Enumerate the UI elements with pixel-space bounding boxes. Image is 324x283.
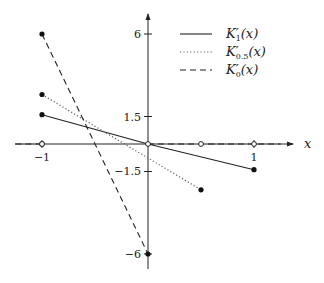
- legend-label-2: K′0(x): [225, 62, 258, 79]
- open-point: [146, 142, 151, 147]
- legend-label-1: K′0.5(x): [225, 44, 266, 61]
- open-point: [199, 142, 204, 147]
- x-tick-label: 1: [251, 151, 258, 164]
- axes: x−1161.5−1.5−6: [15, 14, 312, 269]
- filled-point: [39, 92, 44, 97]
- legend: K′1(x)K′0.5(x)K′0(x): [180, 26, 266, 79]
- filled-point: [39, 31, 44, 36]
- filled-point: [198, 187, 203, 192]
- filled-point: [39, 112, 44, 117]
- chart: x−1161.5−1.5−6 K′1(x)K′0.5(x)K′0(x): [0, 0, 324, 283]
- filled-point: [145, 251, 150, 256]
- open-point: [40, 142, 45, 147]
- x-tick-label: −1: [34, 151, 50, 164]
- open-point: [252, 142, 257, 147]
- legend-label-0: K′1(x): [225, 26, 258, 43]
- filled-point: [251, 167, 256, 172]
- x-axis-label: x: [304, 136, 312, 151]
- y-tick-label: −6: [125, 248, 141, 261]
- y-tick-label: 6: [134, 28, 141, 41]
- y-tick-label: −1.5: [114, 165, 141, 178]
- y-tick-label: 1.5: [124, 111, 142, 124]
